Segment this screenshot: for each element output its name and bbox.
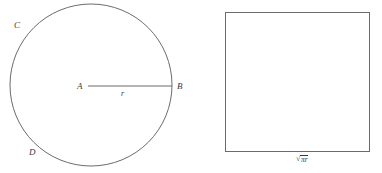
geometry-figure: A B C D r √πr — [0, 0, 382, 173]
radicand-text: πr — [300, 155, 308, 165]
geometry-canvas — [0, 0, 382, 173]
circle-shape — [10, 4, 172, 166]
radius-measure-label: r — [121, 90, 124, 98]
square-shape — [226, 13, 370, 152]
circle-arc-lower-label: D — [29, 148, 36, 157]
square-side-label: √πr — [296, 155, 308, 165]
radical-expression: √πr — [296, 155, 308, 165]
circle-edge-point-label: B — [177, 82, 183, 91]
circle-center-label: A — [77, 82, 83, 91]
circle-arc-upper-label: C — [14, 21, 20, 30]
